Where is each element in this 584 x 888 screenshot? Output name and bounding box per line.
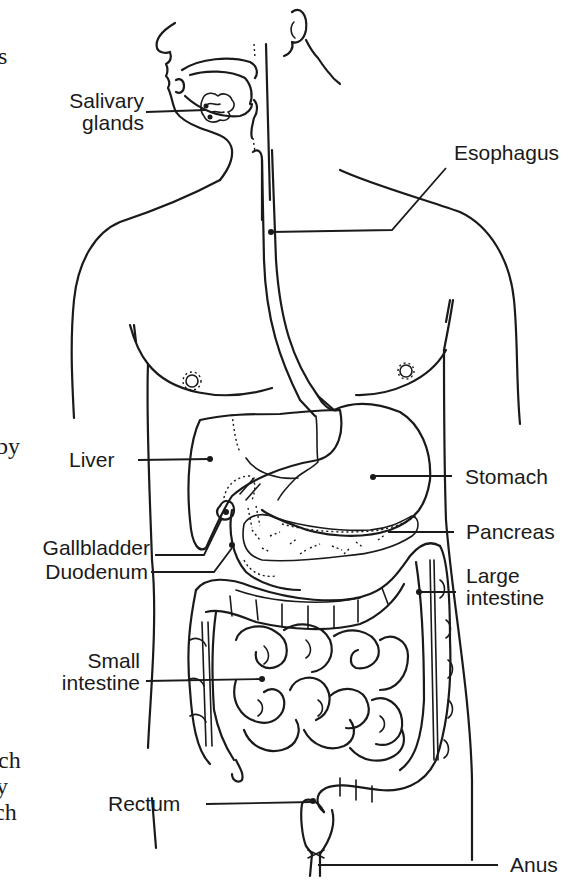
cropped-text-fragment: s (0, 44, 7, 68)
label-rectum: Rectum (108, 793, 180, 815)
small-intestine (234, 625, 408, 761)
digestive-system-diagram: Salivary glands Esophagus Liver Stomach … (0, 0, 584, 888)
leader-lines (138, 110, 498, 865)
label-gallbladder: Gallbladder (0, 537, 150, 559)
cropped-text-fragment: y (0, 774, 8, 798)
label-salivary-glands-line1: Salivary (40, 90, 144, 112)
gallbladder (217, 476, 260, 528)
label-pancreas: Pancreas (466, 521, 555, 543)
esophagus (262, 150, 334, 416)
label-large-intestine-line2: intestine (466, 587, 544, 609)
label-small-intestine-line2: intestine (30, 672, 140, 694)
label-small-intestine: Small intestine (30, 650, 140, 694)
cropped-text-fragment: by (0, 434, 20, 458)
label-liver: Liver (69, 449, 115, 471)
liver (188, 410, 341, 549)
label-large-intestine: Large intestine (466, 565, 544, 609)
label-small-intestine-line1: Small (30, 650, 140, 672)
large-intestine (188, 543, 453, 812)
label-stomach: Stomach (465, 466, 548, 488)
label-duodenum: Duodenum (0, 561, 148, 583)
label-large-intestine-line1: Large (466, 565, 544, 587)
label-anus: Anus (510, 854, 558, 876)
torso-outline (72, 170, 520, 860)
label-salivary-glands-line2: glands (40, 112, 144, 134)
label-salivary-glands: Salivary glands (40, 90, 144, 134)
cropped-text-fragment: ch (0, 748, 21, 772)
cropped-text-fragment: ch (0, 800, 17, 824)
pancreas (243, 515, 418, 577)
label-esophagus: Esophagus (454, 142, 559, 164)
stomach (262, 396, 430, 536)
head-profile (157, 10, 340, 220)
